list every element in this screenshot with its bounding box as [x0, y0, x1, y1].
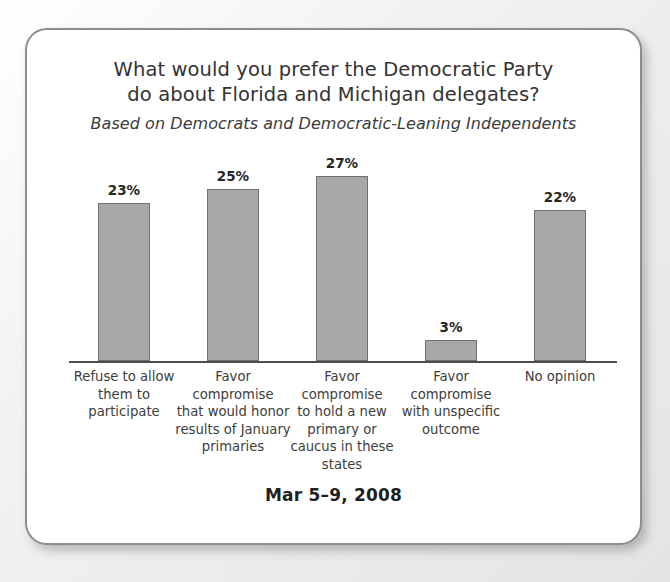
bar-0: [98, 203, 150, 361]
category-label-3: Favor compromise with unspecific outcome: [393, 368, 509, 438]
bar-1: [207, 189, 259, 361]
x-axis-line: [69, 361, 617, 363]
bar-slot-3: 3%: [396, 155, 506, 361]
bar-slot-1: 25%: [178, 155, 288, 361]
category-label-1: Favor compromise that would honor result…: [175, 368, 291, 456]
bar-value-4: 22%: [505, 189, 615, 205]
bar-2: [316, 176, 368, 361]
plot-area: 23% 25% 27% 3% 22%: [67, 155, 617, 363]
category-label-2: Favor compromise to hold a new primary o…: [284, 368, 400, 473]
bar-slot-2: 27%: [287, 155, 397, 361]
category-label-4: No opinion: [502, 368, 618, 386]
bar-slot-0: 23%: [69, 155, 179, 361]
bar-value-1: 25%: [178, 168, 288, 184]
survey-date: Mar 5–9, 2008: [27, 485, 640, 505]
bar-value-2: 27%: [287, 155, 397, 171]
chart-screenshot: What would you prefer the Democratic Par…: [0, 0, 670, 582]
bar-4: [534, 210, 586, 361]
bar-3: [425, 340, 477, 361]
category-label-0: Refuse to allow them to participate: [66, 368, 182, 421]
chart-card: What would you prefer the Democratic Par…: [25, 28, 642, 545]
bar-value-3: 3%: [396, 319, 506, 335]
bar-slot-4: 22%: [505, 155, 615, 361]
chart-title: What would you prefer the Democratic Par…: [27, 57, 640, 107]
chart-subtitle: Based on Democrats and Democratic-Leanin…: [27, 114, 640, 133]
category-labels: Refuse to allow them to participate Favo…: [67, 368, 617, 478]
bar-value-0: 23%: [69, 182, 179, 198]
